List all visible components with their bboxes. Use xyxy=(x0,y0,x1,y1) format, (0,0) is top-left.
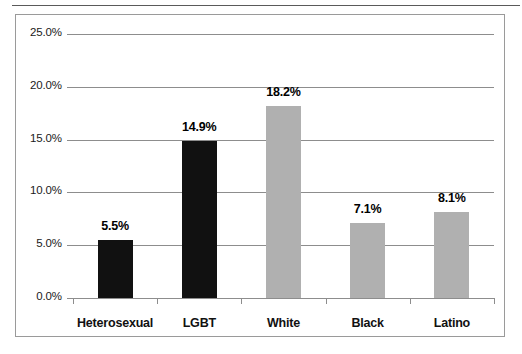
y-axis-tick-label: 10.0% xyxy=(16,184,62,196)
y-axis-tick-label: 15.0% xyxy=(16,132,62,144)
bar-value-label: 14.9% xyxy=(159,120,239,134)
y-axis-tick-label: 20.0% xyxy=(16,79,62,91)
x-tick-mark xyxy=(241,298,242,304)
y-axis-tick-label: 5.0% xyxy=(16,237,62,249)
bar-black xyxy=(350,223,385,298)
x-tick-mark xyxy=(326,298,327,304)
bar-value-label: 5.5% xyxy=(75,219,155,233)
y-tick-mark xyxy=(67,140,73,141)
bar-latino xyxy=(434,212,469,298)
x-axis-label-latino: Latino xyxy=(392,316,512,330)
x-tick-mark xyxy=(410,298,411,304)
x-tick-mark xyxy=(494,298,495,304)
y-axis-tick-label: 25.0% xyxy=(16,26,62,38)
plot-area xyxy=(73,34,494,298)
y-tick-mark xyxy=(67,245,73,246)
y-gridline xyxy=(73,34,494,35)
y-tick-mark xyxy=(67,87,73,88)
bar-white xyxy=(266,106,301,298)
x-tick-mark xyxy=(73,298,74,304)
y-gridline xyxy=(73,298,494,299)
bar-lgbt xyxy=(182,141,217,298)
bar-value-label: 8.1% xyxy=(412,191,492,205)
y-axis-tick-label: 0.0% xyxy=(16,290,62,302)
scan-artifact-line xyxy=(12,5,520,6)
x-tick-mark xyxy=(157,298,158,304)
y-tick-mark xyxy=(67,192,73,193)
bar-value-label: 18.2% xyxy=(244,85,324,99)
bar-heterosexual xyxy=(98,240,133,298)
chart-frame: 0.0%5.0%10.0%15.0%20.0%25.0%5.5%Heterose… xyxy=(15,14,505,337)
bar-value-label: 7.1% xyxy=(328,202,408,216)
y-tick-mark xyxy=(67,34,73,35)
